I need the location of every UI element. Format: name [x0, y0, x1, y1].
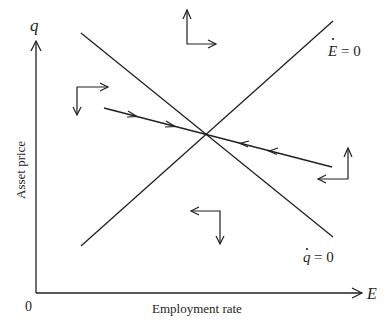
direction-arrows-top [183, 10, 216, 48]
q-dot-zero-label: q = 0 [303, 248, 334, 265]
x-axis-label: Employment rate [152, 301, 242, 316]
svg-text:= 0: = 0 [341, 43, 361, 59]
direction-arrows-right [318, 148, 352, 183]
y-axis [31, 41, 41, 293]
y-axis-symbol: q [30, 16, 39, 35]
direction-arrows-bottom [191, 207, 224, 244]
x-axis-symbol: E [366, 285, 377, 302]
svg-text:E: E [327, 43, 337, 59]
direction-arrows-left [73, 83, 108, 115]
E-dot-zero-label: E = 0 [327, 38, 361, 59]
phase-diagram: q E 0 Employment rate Asset price E = 0 … [0, 0, 390, 327]
origin-label: 0 [25, 299, 32, 314]
y-axis-label: Asset price [13, 141, 28, 199]
svg-text:= 0: = 0 [314, 249, 334, 265]
E-dot-zero-locus [81, 21, 333, 246]
saddle-path [104, 108, 332, 167]
x-axis [36, 288, 362, 298]
svg-text:q: q [303, 249, 311, 265]
